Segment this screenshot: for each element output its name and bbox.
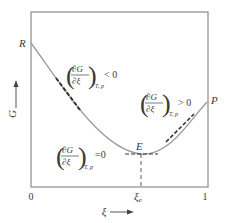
denominator: ∂ξ [146, 104, 154, 114]
relation: < 0 [104, 69, 117, 80]
gibbs-energy-diagram: G R E P 0 ξe 1 ξ ( ∂G ∂ξ ) T, p < 0 ( ∂G… [0, 0, 230, 223]
numerator: ∂G [62, 145, 73, 155]
numerator: ∂G [72, 64, 83, 74]
y-arrow-head-icon [14, 80, 19, 87]
subscript: T, p [169, 111, 178, 117]
subscript: T, p [84, 164, 93, 170]
x-axis-label: ξ [102, 205, 107, 218]
x-tick-0: 0 [29, 191, 34, 202]
y-axis-label: G [6, 110, 18, 118]
denominator: ∂ξ [72, 76, 80, 86]
tangent-right [166, 114, 194, 142]
relation: =0 [95, 149, 106, 160]
subscript: T, p [95, 83, 104, 89]
annotation-positive-slope: ( ∂G ∂ξ ) T, p > 0 [140, 89, 191, 118]
x-tick-1: 1 [203, 191, 208, 202]
label-R: R [18, 37, 26, 49]
x-tick-xi-e: ξe [134, 190, 142, 204]
label-E: E [135, 140, 143, 152]
label-P: P [210, 94, 218, 106]
annotation-negative-slope: ( ∂G ∂ξ ) T, p < 0 [66, 61, 117, 90]
relation: > 0 [178, 97, 191, 108]
x-arrow-head-icon [127, 210, 134, 215]
numerator: ∂G [146, 92, 157, 102]
annotation-zero-slope: ( ∂G ∂ξ ) T, p =0 [56, 142, 106, 171]
denominator: ∂ξ [62, 157, 70, 167]
